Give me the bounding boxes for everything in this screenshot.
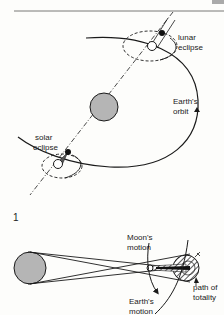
figure-1-orbit-diagram: lunar eclipse Earth's orbit solar eclips… xyxy=(18,12,203,195)
moons-motion-label-2: motion xyxy=(127,243,151,252)
solar-eclipse-label-2: eclipse xyxy=(33,143,58,152)
earths-orbit-label-2: orbit xyxy=(173,107,189,116)
path-of-totality-label-2: totality xyxy=(193,293,216,302)
earth-icon-lunar xyxy=(148,42,157,51)
sun-icon xyxy=(90,93,118,121)
figure-1-number: 1 xyxy=(13,212,19,223)
page-corner-mark xyxy=(212,0,224,4)
figure-2-shadow-diagram xyxy=(14,240,200,314)
earths-motion-label-1: Earth's xyxy=(129,297,154,306)
earths-orbit-label-1: Earth's xyxy=(173,97,198,106)
moon-orbit-solar-solid xyxy=(65,155,81,178)
earths-motion-label-2: motion xyxy=(129,307,153,315)
earth-icon-solar xyxy=(54,160,63,169)
eclipse-diagram: lunar eclipse Earth's orbit solar eclips… xyxy=(0,0,224,315)
sun-icon-2 xyxy=(14,252,46,284)
lunar-eclipse-label-1: lunar xyxy=(178,33,196,42)
orbit-direction-arrow-icon xyxy=(194,107,200,112)
moon-icon-lunar xyxy=(159,30,165,36)
path-of-totality-label-1: path of xyxy=(193,283,218,292)
moon-icon-solar xyxy=(65,149,71,155)
moons-motion-label-1: Moon's xyxy=(127,233,153,242)
lunar-eclipse-label-2: eclipse xyxy=(178,43,203,52)
solar-eclipse-label-1: solar xyxy=(35,133,53,142)
